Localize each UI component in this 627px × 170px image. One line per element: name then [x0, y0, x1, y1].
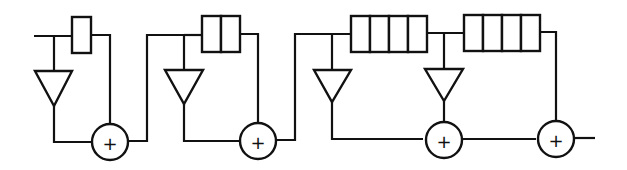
stage-1: + — [34, 17, 190, 160]
delay-cell — [221, 16, 240, 52]
adder-plus-sign: + — [548, 130, 563, 151]
delay-output-wire — [91, 35, 110, 124]
multiplier-triangle — [425, 69, 463, 101]
multiplier-triangle — [314, 70, 351, 102]
multiplier-triangle — [165, 70, 203, 104]
delay-cell — [351, 16, 370, 52]
delay-cell — [72, 17, 91, 53]
block-diagram: + + + — [0, 0, 627, 170]
adder-plus-sign: + — [436, 131, 451, 152]
adder-plus-sign: + — [250, 132, 265, 153]
multiplier-output-wire — [54, 106, 92, 142]
stage-4: + — [464, 15, 595, 157]
delay-cell — [408, 16, 427, 52]
multiplier-triangle — [35, 71, 72, 106]
delay-cell — [521, 15, 540, 51]
delay-cell — [483, 15, 502, 51]
delay-cell — [370, 16, 389, 52]
delay-cell — [464, 15, 483, 51]
multiplier-output-wire — [332, 102, 423, 139]
delay-cell — [502, 15, 521, 51]
multiplier-output-wire — [184, 104, 240, 141]
adder-plus-sign: + — [102, 133, 117, 154]
delay-cell — [202, 16, 221, 52]
delay-output-wire — [240, 34, 258, 123]
delay-cell — [389, 16, 408, 52]
delay-output-wire — [540, 32, 556, 121]
